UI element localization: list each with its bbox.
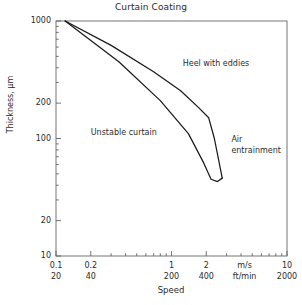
x-tick-label-ft-20: 20 bbox=[51, 272, 61, 281]
x-tick-label-ms-0-2: 0.2 bbox=[84, 261, 97, 270]
annotation-entrainment: entrainment bbox=[231, 146, 281, 156]
x-tick-label-ft-200: 200 bbox=[164, 272, 179, 281]
y-tick-label-10: 10 bbox=[18, 251, 51, 260]
curve-1 bbox=[65, 21, 222, 182]
x-axis-title: Speed bbox=[55, 285, 287, 295]
x-axis-unit-ms: m/s bbox=[237, 261, 252, 270]
x-tick-label-ft-40: 40 bbox=[86, 272, 96, 281]
y-tick-label-1000: 1000 bbox=[18, 16, 51, 25]
y-tick-label-200: 200 bbox=[18, 98, 51, 107]
y-axis-ticks bbox=[56, 21, 61, 256]
x-tick-label-ft-2000: 2000 bbox=[277, 272, 297, 281]
x-tick-label-ms-10: 10 bbox=[282, 261, 292, 270]
annotation-unstable-curtain: Unstable curtain bbox=[91, 128, 157, 138]
chart-container: Curtain Coating Thickness, μm 1000 200 1… bbox=[0, 0, 302, 305]
annotation-air: Air bbox=[231, 135, 242, 145]
x-tick-label-ms-0-1: 0.1 bbox=[50, 261, 63, 270]
x-tick-label-ms-2: 2 bbox=[204, 261, 209, 270]
x-tick-label-ft-400: 400 bbox=[199, 272, 214, 281]
y-tick-label-20: 20 bbox=[18, 216, 51, 225]
x-axis-ticks bbox=[56, 251, 287, 256]
x-tick-label-ms-1: 1 bbox=[169, 261, 174, 270]
y-tick-label-100: 100 bbox=[18, 134, 51, 143]
plot-frame bbox=[56, 21, 287, 256]
data-curves bbox=[65, 21, 222, 182]
annotation-heel-with-eddies: Heel with eddies bbox=[183, 59, 250, 69]
x-axis-unit-ftmin: ft/min bbox=[233, 272, 257, 281]
